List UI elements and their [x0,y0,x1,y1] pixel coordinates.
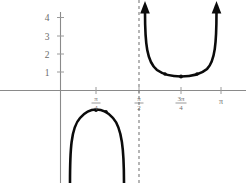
x-axis-label-3pi-over-4-denominator: 4 [179,104,183,112]
marker-right-branch-point-right [195,72,198,75]
marker-right-branch-point-left [163,72,166,75]
x-axis-label-3pi-over-4: 3π 4 [176,95,187,112]
plot-canvas: 4 3 2 1 π 4 π 2 3π 4 π [0,0,246,183]
y-axis-label-2: 2 [45,50,50,60]
x-axis-label-pi: π [219,97,223,106]
x-axis-label-3pi-over-4-numerator: 3π [177,95,185,103]
x-axis-label-pi-over-2-denominator: 2 [137,104,141,112]
arrowhead-left-branch-up [140,1,150,14]
x-axis-label-pi-over-4-numerator: π [94,95,98,103]
x-axis-label-pi-over-2: π 2 [135,95,144,112]
secant-graph-figure: 4 3 2 1 π 4 π 2 3π 4 π [0,0,246,183]
y-axis-label-1: 1 [45,68,50,78]
y-axis-label-4: 4 [45,13,50,23]
y-axis-label-3: 3 [45,32,50,42]
curve-left-branch [70,110,124,184]
marker-left-branch-point [104,110,107,113]
curve-right-branch [145,12,217,77]
arrowhead-right-branch-up [212,1,222,14]
marker-3pi-over-4-vertex [179,75,183,79]
x-axis-label-pi-over-2-numerator: π [137,95,141,103]
curve-point-markers [94,72,199,113]
x-axis-label-pi-over-4-denominator: 4 [94,104,98,112]
